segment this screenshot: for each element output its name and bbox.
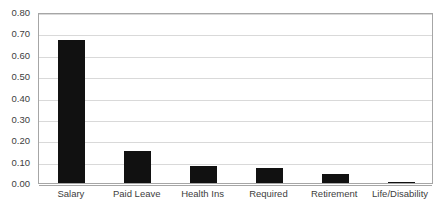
chart-title — [0, 0, 444, 5]
plot-area — [38, 13, 433, 184]
bar — [58, 40, 85, 183]
y-axis-tick-label: 0.60 — [0, 51, 30, 61]
bar — [124, 151, 151, 183]
y-axis-tick-label: 0.80 — [0, 8, 30, 18]
x-axis-tick-label: Health Ins — [170, 188, 236, 200]
bars-layer — [39, 14, 432, 183]
x-axis-tick-label: Required — [236, 188, 302, 200]
x-axis-tick-label: Retirement — [301, 188, 367, 200]
y-axis-tick-label: 0.00 — [0, 179, 30, 189]
bar — [388, 182, 415, 184]
x-axis-tick-label: Paid Leave — [104, 188, 170, 200]
y-axis-tick-label: 0.20 — [0, 136, 30, 146]
y-axis-tick-label: 0.30 — [0, 115, 30, 125]
bar-chart: 0.800.700.600.500.400.300.200.100.00 Sal… — [0, 0, 444, 216]
y-axis-tick-label: 0.50 — [0, 72, 30, 82]
gridline — [39, 185, 432, 186]
y-axis-tick-label: 0.70 — [0, 29, 30, 39]
bar — [322, 174, 349, 183]
y-axis-tick-label: 0.10 — [0, 158, 30, 168]
x-axis-tick-label: Salary — [38, 188, 104, 200]
bar — [256, 168, 283, 183]
bar — [190, 166, 217, 183]
y-axis-tick-label: 0.40 — [0, 94, 30, 104]
x-axis-tick-label: Life/Disability — [367, 188, 433, 200]
y-axis: 0.800.700.600.500.400.300.200.100.00 — [0, 13, 34, 184]
x-axis: SalaryPaid LeaveHealth InsRequiredRetire… — [38, 188, 433, 210]
